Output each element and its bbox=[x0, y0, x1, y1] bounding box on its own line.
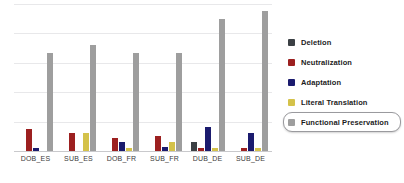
legend-item[interactable]: Adaptation bbox=[283, 72, 401, 92]
x-axis-baseline bbox=[14, 151, 272, 152]
x-axis-label: DUB_DE bbox=[186, 155, 229, 162]
x-axis-label: DOB_ES bbox=[14, 155, 57, 162]
bar bbox=[83, 133, 89, 151]
x-axis-label: SUB_ES bbox=[57, 155, 100, 162]
bar bbox=[26, 129, 32, 151]
x-axis-label: DOB_FR bbox=[100, 155, 143, 162]
bar bbox=[112, 138, 118, 151]
legend-item[interactable]: Functional Preservation bbox=[283, 112, 401, 132]
bar-group bbox=[186, 4, 229, 151]
plot-area bbox=[14, 4, 272, 152]
bar bbox=[119, 142, 125, 151]
bar bbox=[191, 142, 197, 151]
x-axis-label: SUB_DE bbox=[229, 155, 272, 162]
bar bbox=[133, 53, 139, 151]
legend-item[interactable]: Deletion bbox=[283, 32, 401, 52]
bar-group bbox=[143, 4, 186, 151]
legend-swatch-icon bbox=[288, 39, 295, 46]
bar bbox=[155, 136, 161, 151]
bar bbox=[90, 45, 96, 151]
bar bbox=[219, 19, 225, 151]
chart-container: DOB_ESSUB_ESDOB_FRSUB_FRDUB_DESUB_DE Del… bbox=[0, 0, 404, 183]
legend-swatch-icon bbox=[288, 59, 295, 66]
legend-label: Functional Preservation bbox=[301, 118, 389, 127]
bar bbox=[248, 133, 254, 151]
bar-group bbox=[229, 4, 272, 151]
legend-swatch-icon bbox=[288, 119, 295, 126]
bar bbox=[262, 11, 268, 151]
bar bbox=[205, 127, 211, 151]
bar bbox=[69, 133, 75, 151]
legend-label: Deletion bbox=[301, 38, 331, 47]
legend-item[interactable]: Literal Translation bbox=[283, 92, 401, 112]
bar-group bbox=[57, 4, 100, 151]
chart-legend: DeletionNeutralizationAdaptationLiteral … bbox=[283, 32, 401, 132]
bar-group bbox=[100, 4, 143, 151]
bar bbox=[176, 53, 182, 151]
bar bbox=[169, 142, 175, 151]
bar-group bbox=[14, 4, 57, 151]
legend-swatch-icon bbox=[288, 79, 295, 86]
legend-swatch-icon bbox=[288, 99, 295, 106]
legend-label: Literal Translation bbox=[301, 98, 368, 107]
bar bbox=[47, 53, 53, 151]
x-axis-label: SUB_FR bbox=[143, 155, 186, 162]
legend-item[interactable]: Neutralization bbox=[283, 52, 401, 72]
x-axis-labels: DOB_ESSUB_ESDOB_FRSUB_FRDUB_DESUB_DE bbox=[14, 155, 272, 162]
legend-label: Neutralization bbox=[301, 58, 352, 67]
legend-label: Adaptation bbox=[301, 78, 341, 87]
bar-groups bbox=[14, 4, 272, 151]
